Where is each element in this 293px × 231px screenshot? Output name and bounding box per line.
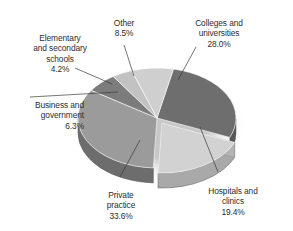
- slice-label-colleges-and-universities: Colleges and universities 28.0%: [186, 8, 252, 59]
- slice-label-elementary-and-secondary-schools: Elementary and secondary schools 4.2%: [22, 23, 98, 84]
- slice-label-hospitals-name: Hospitals and clinics: [208, 186, 257, 206]
- slice-label-private-name: Private practice: [107, 190, 136, 210]
- slice-label-colleges-percent: 28.0%: [186, 39, 252, 49]
- slice-label-other: Other 8.5%: [98, 8, 150, 49]
- slice-label-private-percent: 33.6%: [92, 211, 150, 221]
- slice-label-elementary-percent: 4.2%: [22, 64, 98, 74]
- slice-label-business-percent: 6.3%: [4, 121, 84, 131]
- slice-label-private-practice: Private practice 33.6%: [92, 180, 150, 231]
- slice-label-colleges-name: Colleges and universities: [195, 18, 243, 38]
- slice-label-hospitals-and-clinics: Hospitals and clinics 19.4%: [196, 176, 270, 227]
- slice-label-business-and-government: Business and government 6.3%: [4, 90, 84, 141]
- pie-chart-figure: Other 8.5% Colleges and universities 28.…: [0, 0, 293, 231]
- slice-label-elementary-name: Elementary and secondary schools: [33, 33, 87, 63]
- slice-label-other-name: Other: [114, 18, 134, 28]
- slice-label-hospitals-percent: 19.4%: [196, 207, 270, 217]
- slice-label-other-percent: 8.5%: [98, 28, 150, 38]
- slice-label-business-name: Business and government: [35, 100, 84, 120]
